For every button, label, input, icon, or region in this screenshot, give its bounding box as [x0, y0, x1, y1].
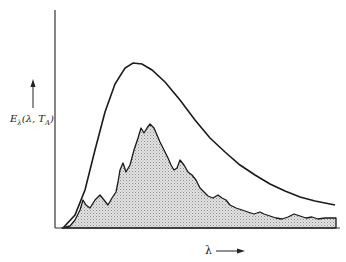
- spectrum-chart: [0, 0, 346, 262]
- x-axis-label: λ: [205, 244, 212, 257]
- y-arrowhead-icon: [31, 79, 36, 87]
- x-arrowhead-icon: [237, 249, 245, 254]
- measured-spectrum-area: [62, 124, 336, 228]
- y-axis-label: Eλ(λ, TA): [10, 113, 54, 127]
